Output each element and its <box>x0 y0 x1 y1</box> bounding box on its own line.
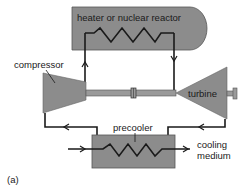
heater-reactor: heater or nuclear reactor <box>72 7 207 50</box>
shaft <box>86 88 176 98</box>
compressor: compressor <box>14 59 86 113</box>
cooling-medium-label-line2: medium <box>197 150 231 161</box>
precooler: precooler cooling medium <box>68 122 231 168</box>
heater-label: heater or nuclear reactor <box>77 12 181 23</box>
turbine: turbine <box>176 67 237 119</box>
panel-label: (a) <box>7 174 19 185</box>
precooler-label: precooler <box>113 122 153 133</box>
compressor-label: compressor <box>14 59 64 70</box>
cooling-medium-label-line1: cooling <box>197 139 227 150</box>
turbine-label: turbine <box>188 88 217 99</box>
gas-turbine-diagram: heater or nuclear reactor compressor tur… <box>0 0 251 186</box>
